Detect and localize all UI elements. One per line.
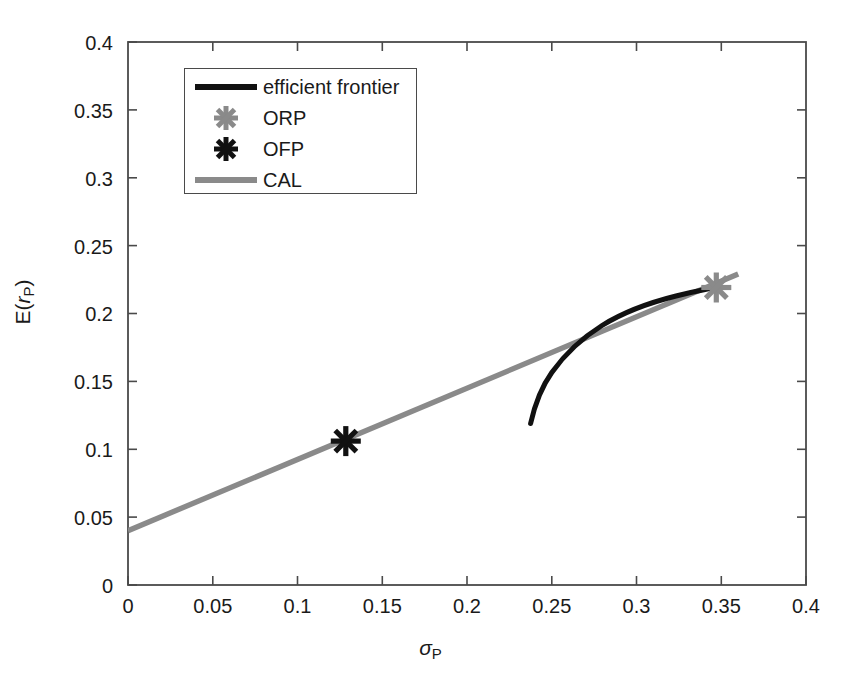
legend-key-orp xyxy=(185,102,263,133)
legend-label-ofp: OFP xyxy=(263,139,304,159)
marker-orp xyxy=(701,273,731,303)
x-axis-label-subscript: P xyxy=(432,645,442,662)
ytick-label-0: 0 xyxy=(38,576,113,596)
ytick-label-7: 0.35 xyxy=(38,101,113,121)
legend-label-orp: ORP xyxy=(263,108,306,128)
legend-item-orp: ORP xyxy=(185,102,416,133)
y-axis-label: E(rP) xyxy=(12,232,36,372)
xtick-label-8: 0.4 xyxy=(756,596,856,616)
legend-item-cal: CAL xyxy=(185,164,416,195)
line-swatch-icon xyxy=(195,177,257,183)
ytick-label-5: 0.25 xyxy=(38,237,113,257)
ytick-label-1: 0.05 xyxy=(38,508,113,528)
legend-label-cal: CAL xyxy=(263,170,302,190)
marker-ofp xyxy=(331,426,361,456)
y-axis-label-r: r xyxy=(11,297,34,304)
ytick-label-6: 0.3 xyxy=(38,169,113,189)
legend-item-ofp: OFP xyxy=(185,133,416,164)
legend-box: efficient frontier ORP xyxy=(184,68,417,194)
ytick-label-8: 0.4 xyxy=(38,33,113,53)
line-swatch-icon xyxy=(195,84,257,90)
legend-key-cal xyxy=(185,164,263,195)
legend-item-efficient-frontier: efficient frontier xyxy=(185,71,416,102)
x-axis-label-sigma: σ xyxy=(419,636,432,659)
figure-canvas: 0 0.05 0.1 0.15 0.2 0.25 0.3 0.35 0.4 0 … xyxy=(0,0,861,679)
y-axis-label-prefix: E( xyxy=(11,304,34,325)
asterisk-icon xyxy=(210,102,242,134)
plot-svg xyxy=(0,0,861,679)
y-axis-label-subscript: P xyxy=(20,287,37,297)
asterisk-icon xyxy=(210,133,242,165)
ytick-label-3: 0.15 xyxy=(38,372,113,392)
ytick-label-4: 0.2 xyxy=(38,304,113,324)
legend-key-efficient-frontier xyxy=(185,71,263,102)
legend-label-efficient-frontier: efficient frontier xyxy=(263,77,399,97)
ytick-label-2: 0.1 xyxy=(38,440,113,460)
x-axis-label: σP xyxy=(0,637,861,661)
legend-key-ofp xyxy=(185,133,263,164)
y-axis-label-suffix: ) xyxy=(11,280,34,287)
